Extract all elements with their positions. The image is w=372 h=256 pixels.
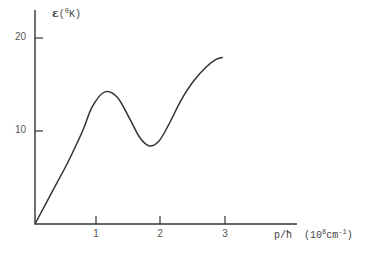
x-tick-label-2: 2 xyxy=(153,228,167,239)
y-label-unit: K) xyxy=(69,9,81,20)
x-tick-label-3: 3 xyxy=(218,228,232,239)
x-label-unit: cm xyxy=(326,230,338,241)
x-label-var: p/ħ xyxy=(274,230,292,241)
y-tick-label-10: 10 xyxy=(6,124,26,135)
chart-canvas xyxy=(0,0,372,256)
x-label-unit-exp: -1 xyxy=(338,228,346,236)
excitation-curve xyxy=(35,58,222,225)
x-tick-label-1: 1 xyxy=(89,228,103,239)
y-axis-label: ε(0K) xyxy=(52,7,81,20)
x-axis-label: p/ħ (108cm-1) xyxy=(274,230,353,241)
epsilon-symbol: ε xyxy=(52,7,59,20)
x-label-close: ) xyxy=(347,230,353,241)
y-tick-label-20: 20 xyxy=(6,31,26,42)
figure-caption-cropped xyxy=(34,250,264,256)
x-label-open: (10 xyxy=(304,230,322,241)
